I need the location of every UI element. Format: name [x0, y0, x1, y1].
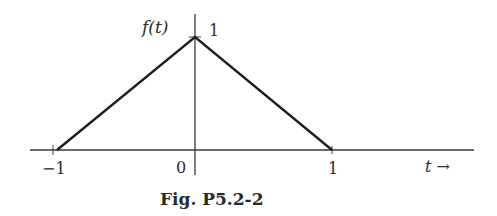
triangle-pulse-figure: f(t) 1 −1 0 1 t → Fig. P5.2-2 [0, 0, 497, 216]
tick-label-one: 1 [328, 159, 338, 178]
x-axis-label: t → [425, 157, 450, 176]
tick-label-zero: 0 [176, 158, 186, 177]
tick-label-neg-one: −1 [42, 159, 66, 178]
figure-caption: Fig. P5.2-2 [160, 189, 264, 209]
y-axis-label: f(t) [140, 17, 168, 37]
peak-value-label: 1 [209, 21, 219, 40]
